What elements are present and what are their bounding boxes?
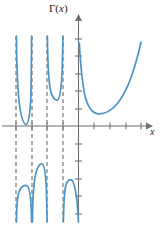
- gamma-branch-neg3-neg2: [32, 164, 47, 222]
- gamma-branch-neg4-neg3: [16, 36, 31, 125]
- gamma-branch-neg1-zero: [63, 180, 78, 222]
- asymptote-group: [16, 36, 63, 222]
- gamma-branch-positive: [79, 42, 141, 114]
- y-axis-label-close: ): [64, 2, 68, 14]
- x-axis-label: x: [150, 127, 154, 137]
- y-axis-arrow-icon: [75, 14, 82, 21]
- y-axis-label: Γ(x): [49, 3, 68, 14]
- gamma-branch-neg2-neg1: [47, 36, 63, 100]
- gamma-function-figure: Γ(x) x: [0, 0, 161, 227]
- y-axis-label-fn: Γ(: [49, 2, 59, 14]
- gamma-plot-canvas: [0, 0, 161, 227]
- gamma-branch-neg5-neg4: [16, 185, 31, 222]
